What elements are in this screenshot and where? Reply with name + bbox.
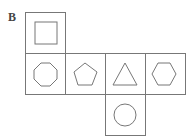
hexagon-icon [152,63,176,85]
triangle-icon [113,63,137,85]
pentagon-icon [74,63,97,85]
square-icon [35,22,57,44]
octagon-icon [34,63,57,86]
circle-icon [114,104,136,126]
shapes-layer [0,0,193,140]
